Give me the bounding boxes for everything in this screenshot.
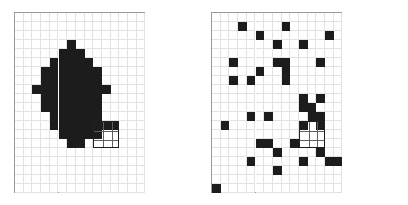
grid-cell-empty[interactable] [221, 166, 230, 175]
grid-cell-filled[interactable] [221, 121, 230, 130]
grid-cell-empty[interactable] [59, 139, 68, 148]
grid-cell-empty[interactable] [137, 103, 146, 112]
grid-cell-empty[interactable] [102, 103, 111, 112]
grid-cell-empty[interactable] [32, 40, 41, 49]
grid-cell-empty[interactable] [229, 166, 238, 175]
grid-cell-empty[interactable] [212, 13, 221, 22]
grid-cell-empty[interactable] [85, 175, 94, 184]
grid-cell-empty[interactable] [212, 121, 221, 130]
grid-cell-empty[interactable] [264, 49, 273, 58]
grid-cell-empty[interactable] [50, 31, 59, 40]
grid-cell-empty[interactable] [24, 130, 33, 139]
grid-cell-empty[interactable] [24, 13, 33, 22]
grid-cell-filled[interactable] [264, 139, 273, 148]
grid-cell-empty[interactable] [264, 157, 273, 166]
grid-cell-empty[interactable] [212, 130, 221, 139]
grid-cell-empty[interactable] [256, 103, 265, 112]
grid-cell-empty[interactable] [41, 148, 50, 157]
grid-cell-empty[interactable] [59, 157, 68, 166]
grid-cell-empty[interactable] [325, 121, 334, 130]
grid-cell-empty[interactable] [93, 40, 102, 49]
grid-cell-empty[interactable] [221, 85, 230, 94]
grid-cell-empty[interactable] [137, 175, 146, 184]
grid-cell-empty[interactable] [238, 103, 247, 112]
grid-cell-empty[interactable] [102, 22, 111, 31]
grid-cell-empty[interactable] [93, 148, 102, 157]
grid-cell-empty[interactable] [264, 94, 273, 103]
grid-cell-empty[interactable] [325, 112, 334, 121]
grid-cell-filled[interactable] [59, 112, 68, 121]
grid-cell-empty[interactable] [325, 40, 334, 49]
grid-cell-empty[interactable] [229, 40, 238, 49]
grid-cell-empty[interactable] [290, 157, 299, 166]
grid-cell-empty[interactable] [247, 184, 256, 193]
grid-cell-empty[interactable] [247, 13, 256, 22]
grid-cell-empty[interactable] [93, 49, 102, 58]
grid-cell-filled[interactable] [67, 94, 76, 103]
grid-cell-empty[interactable] [119, 22, 128, 31]
grid-cell-empty[interactable] [299, 58, 308, 67]
grid-cell-empty[interactable] [76, 40, 85, 49]
grid-cell-empty[interactable] [128, 112, 137, 121]
grid-cell-empty[interactable] [128, 22, 137, 31]
grid-cell-empty[interactable] [102, 112, 111, 121]
grid-cell-filled[interactable] [325, 157, 334, 166]
grid-cell-empty[interactable] [32, 139, 41, 148]
grid-cell-empty[interactable] [273, 157, 282, 166]
grid-cell-empty[interactable] [221, 67, 230, 76]
grid-cell-empty[interactable] [24, 85, 33, 94]
grid-cell-empty[interactable] [15, 31, 24, 40]
grid-cell-filled[interactable] [308, 112, 317, 121]
grid-cell-empty[interactable] [238, 157, 247, 166]
grid-cell-empty[interactable] [238, 85, 247, 94]
grid-cell-empty[interactable] [15, 40, 24, 49]
grid-cell-empty[interactable] [24, 76, 33, 85]
grid-cell-empty[interactable] [273, 139, 282, 148]
grid-cell-empty[interactable] [238, 139, 247, 148]
grid-cell-empty[interactable] [24, 31, 33, 40]
grid-cell-filled[interactable] [85, 67, 94, 76]
grid-cell-empty[interactable] [212, 67, 221, 76]
grid-cell-empty[interactable] [264, 166, 273, 175]
grid-cell-filled[interactable] [76, 85, 85, 94]
grid-cell-empty[interactable] [299, 22, 308, 31]
grid-cell-empty[interactable] [290, 76, 299, 85]
grid-cell-empty[interactable] [290, 121, 299, 130]
grid-cell-empty[interactable] [316, 67, 325, 76]
grid-cell-empty[interactable] [41, 31, 50, 40]
grid-cell-empty[interactable] [32, 175, 41, 184]
grid-cell-empty[interactable] [137, 40, 146, 49]
grid-cell-filled[interactable] [299, 157, 308, 166]
grid-cell-empty[interactable] [212, 166, 221, 175]
grid-cell-empty[interactable] [76, 166, 85, 175]
grid-cell-empty[interactable] [290, 130, 299, 139]
grid-cell-empty[interactable] [299, 112, 308, 121]
grid-cell-empty[interactable] [15, 121, 24, 130]
grid-cell-empty[interactable] [308, 175, 317, 184]
grid-cell-empty[interactable] [119, 130, 128, 139]
grid-cell-empty[interactable] [247, 40, 256, 49]
grid-cell-empty[interactable] [247, 130, 256, 139]
grid-cell-empty[interactable] [128, 76, 137, 85]
grid-cell-empty[interactable] [128, 175, 137, 184]
grid-cell-empty[interactable] [316, 103, 325, 112]
grid-cell-empty[interactable] [299, 67, 308, 76]
grid-cell-empty[interactable] [85, 40, 94, 49]
grid-cell-empty[interactable] [238, 13, 247, 22]
grid-cell-empty[interactable] [50, 175, 59, 184]
grid-cell-empty[interactable] [212, 40, 221, 49]
grid-cell-empty[interactable] [325, 58, 334, 67]
grid-cell-empty[interactable] [119, 58, 128, 67]
grid-cell-empty[interactable] [119, 139, 128, 148]
grid-cell-filled[interactable] [59, 85, 68, 94]
grid-cell-filled[interactable] [85, 85, 94, 94]
grid-cell-empty[interactable] [32, 13, 41, 22]
grid-cell-empty[interactable] [229, 103, 238, 112]
grid-cell-empty[interactable] [308, 76, 317, 85]
grid-cell-filled[interactable] [93, 130, 102, 139]
grid-cell-empty[interactable] [41, 121, 50, 130]
grid-cell-filled[interactable] [85, 76, 94, 85]
grid-cell-empty[interactable] [290, 166, 299, 175]
grid-cell-empty[interactable] [137, 112, 146, 121]
grid-cell-empty[interactable] [128, 130, 137, 139]
